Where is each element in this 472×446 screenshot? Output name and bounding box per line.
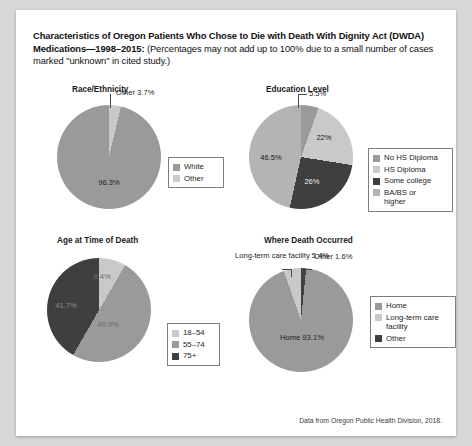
chart-title-where-death-occurred: Where Death Occurred <box>264 236 353 245</box>
infographic-card: Characteristics of Oregon Patients Who C… <box>16 10 456 436</box>
legend-label-home: Home <box>386 301 407 311</box>
chart-panel-education-level: Education Level 5.5% 22% 26% 46.5% No HS… <box>236 10 456 150</box>
pie-race-ethnicity <box>57 105 161 209</box>
legend-swatch-home <box>375 303 382 310</box>
legend-where-death-occurred[interactable]: Home Long-term care facility Other <box>370 296 456 348</box>
legend-item-ltc-facility[interactable]: Long-term care facility <box>375 313 450 332</box>
legend-age-at-time-of-death[interactable]: 18–54 55–74 75+ <box>167 323 220 366</box>
callout-education-no-hs: 5.5% <box>309 89 326 99</box>
slice-label-education-hs-diploma: 22% <box>310 133 338 142</box>
legend-swatch-age-55-74 <box>172 341 179 348</box>
chart-panel-race-ethnicity: Race/Ethnicity Other 3.7% 96.3% White Ot… <box>16 10 236 150</box>
slice-label-age-55-74: 49.9% <box>92 320 124 329</box>
source-attribution: Data from Oregon Public Health Division,… <box>299 417 442 424</box>
legend-swatch-ltc-facility <box>375 314 382 321</box>
legend-swatch-some-college <box>373 178 380 185</box>
chart-panel-where-death-occurred: Where Death Occurred Long-term care faci… <box>236 228 456 408</box>
legend-item-white[interactable]: White <box>173 162 218 172</box>
chart-title-age-at-time-of-death: Age at Time of Death <box>57 236 138 245</box>
legend-education-level[interactable]: No HS Diploma HS Diploma Some college BA… <box>368 148 453 212</box>
legend-swatch-other-death <box>375 335 382 342</box>
callout-leader-no-hs-diploma-h <box>298 94 307 95</box>
legend-swatch-hs-diploma <box>373 166 380 173</box>
legend-label-other: Other <box>184 174 204 184</box>
legend-swatch-no-hs-diploma <box>373 155 380 162</box>
legend-label-age-75-plus: 75+ <box>183 351 196 361</box>
legend-item-hs-diploma[interactable]: HS Diploma <box>373 165 447 175</box>
legend-swatch-white <box>173 164 180 171</box>
callout-leader-other <box>110 94 111 108</box>
callout-leader-ltc-h <box>282 269 292 270</box>
legend-swatch-age-75-plus <box>172 353 179 360</box>
slice-label-age-18-54: 8.4% <box>89 272 115 281</box>
slice-label-education-some-college: 26% <box>298 177 326 186</box>
legend-label-hs-diploma: HS Diploma <box>384 165 426 175</box>
slice-label-education-ba-bs: 46.5% <box>253 153 289 162</box>
callout-leader-ltc <box>291 269 292 277</box>
slice-label-home: Home 93.1% <box>280 333 322 343</box>
legend-item-age-18-54[interactable]: 18–54 <box>172 328 214 338</box>
legend-label-no-hs-diploma: No HS Diploma <box>384 153 438 163</box>
slice-label-age-75-plus: 41.7% <box>50 301 82 310</box>
legend-label-age-18-54: 18–54 <box>183 328 205 338</box>
legend-label-white: White <box>184 162 204 172</box>
legend-swatch-other <box>173 175 180 182</box>
pie-where-death-occurred <box>249 268 353 372</box>
legend-item-no-hs-diploma[interactable]: No HS Diploma <box>373 153 447 163</box>
legend-label-some-college: Some college <box>384 176 431 186</box>
legend-label-ltc-facility: Long-term care facility <box>386 313 439 332</box>
legend-item-other-death[interactable]: Other <box>375 334 450 344</box>
chart-panel-age-at-time-of-death: Age at Time of Death 8.4% 49.9% 41.7% 18… <box>16 228 236 408</box>
legend-item-age-75-plus[interactable]: 75+ <box>172 351 214 361</box>
legend-item-home[interactable]: Home <box>375 301 450 311</box>
legend-item-ba-bs-or-higher[interactable]: BA/BS or higher <box>373 188 447 207</box>
legend-swatch-ba-bs-or-higher <box>373 189 380 196</box>
slice-label-race-white: 96.3% <box>86 178 132 187</box>
callout-leader-no-hs-diploma <box>298 94 299 108</box>
callout-ltc-facility: Long-term care facility 5.4% <box>235 251 283 261</box>
callout-leader-other-death-h <box>302 269 312 270</box>
callout-leader-other-death <box>302 269 303 277</box>
callout-race-other: Other 3.7% <box>116 88 154 98</box>
legend-item-some-college[interactable]: Some college <box>373 176 447 186</box>
legend-label-age-55-74: 55–74 <box>183 340 205 350</box>
legend-label-other-death: Other <box>386 334 406 344</box>
legend-item-age-55-74[interactable]: 55–74 <box>172 340 214 350</box>
legend-swatch-age-18-54 <box>172 330 179 337</box>
legend-race-ethnicity[interactable]: White Other <box>168 157 224 188</box>
legend-label-ba-bs-or-higher: BA/BS or higher <box>384 188 416 207</box>
legend-item-other[interactable]: Other <box>173 174 218 184</box>
callout-other-death: Other 1.6% <box>314 252 352 262</box>
